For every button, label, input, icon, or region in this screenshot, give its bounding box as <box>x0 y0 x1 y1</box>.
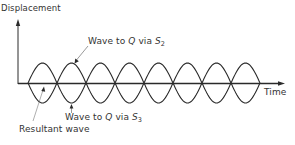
pointer-arrowhead-icon <box>75 58 79 63</box>
y-axis-label: Displacement <box>1 3 61 13</box>
label-source-subscript: 2 <box>161 40 165 48</box>
axis-arrow-right-icon <box>278 81 285 85</box>
label-resultant-wave: Resultant wave <box>19 124 90 134</box>
pointer-arrowhead-icon <box>70 104 74 109</box>
label-via: via <box>112 112 132 122</box>
x-axis-label: Time <box>264 87 286 97</box>
label-via: via <box>135 36 155 46</box>
axis-arrow-up-icon <box>16 19 20 26</box>
label-prefix: Wave to <box>88 36 128 46</box>
pointer-arrowhead-icon <box>41 87 45 92</box>
label-wave-via-s2: Wave to Q via S2 <box>88 36 165 49</box>
pointer-resultant <box>33 87 45 122</box>
label-prefix: Wave to <box>65 112 105 122</box>
displacement-axis <box>16 19 20 84</box>
label-source-subscript: 3 <box>138 116 142 124</box>
pointer-wave-s2 <box>75 46 89 64</box>
